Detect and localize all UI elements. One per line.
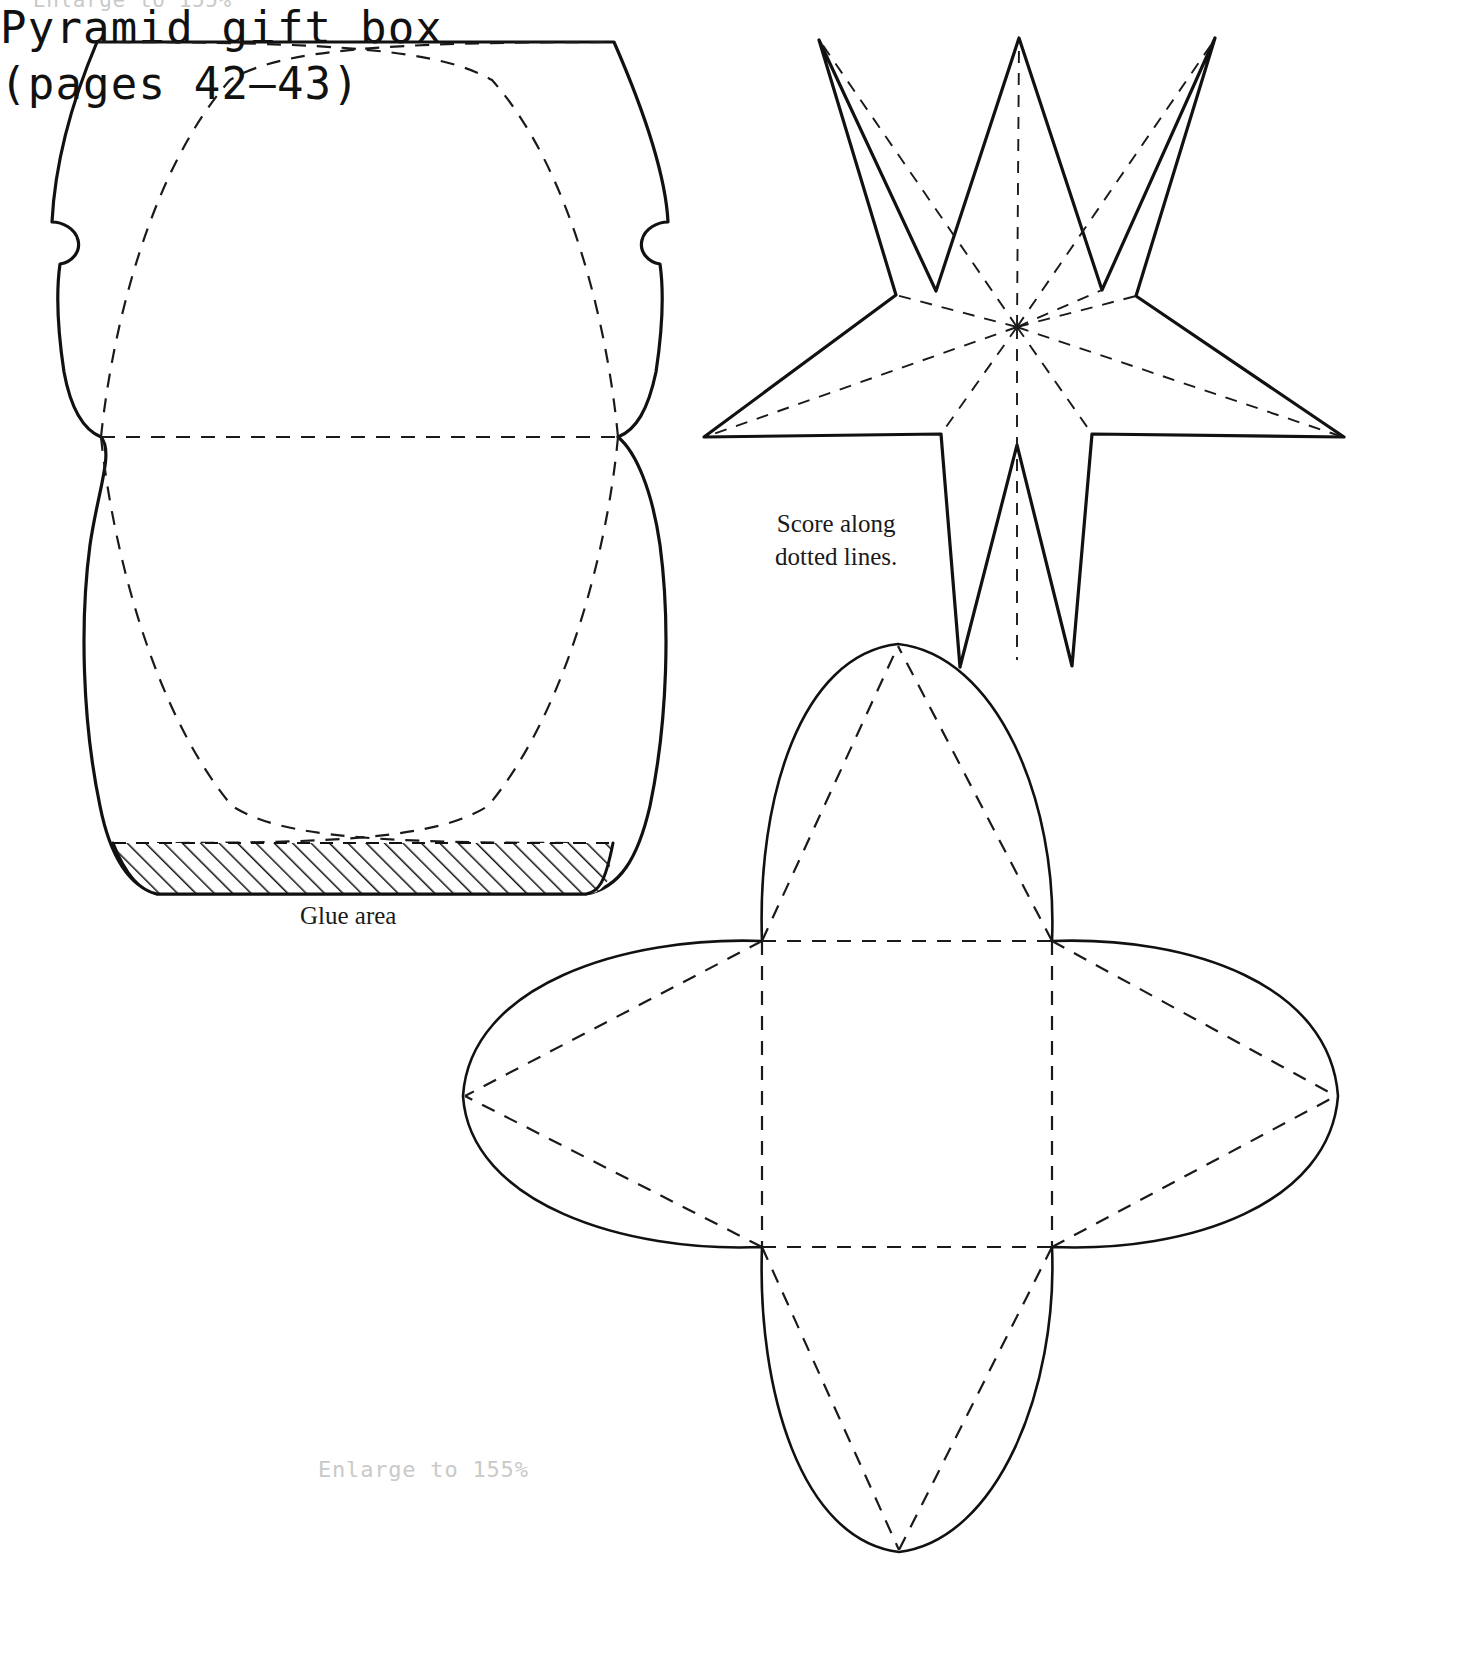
pyramid-score-top-petal-right: [898, 646, 1052, 941]
template-artwork: [0, 0, 1480, 1662]
glue-area-label: Glue area: [300, 899, 396, 932]
pillow-box-score-arc-bottom-left: [157, 437, 618, 843]
pyramid-score-left-petal-bottom: [465, 1096, 762, 1247]
score-instruction-label: Score along dotted lines.: [775, 507, 897, 573]
pillow-box-template: [52, 42, 668, 894]
star-score-to-tip-upper-left: [822, 44, 1017, 327]
enlarge-note-top: Enlarge to 155%: [33, 0, 232, 15]
template-page: Enlarge to 155% Score along dotted lines…: [0, 0, 1480, 1662]
star-score-to-tip-upper-right: [1017, 42, 1213, 327]
enlarge-note-bottom: Enlarge to 155%: [318, 1455, 529, 1484]
pillow-box-score-arc-bottom-right: [101, 437, 586, 843]
pillow-box-glue-hatch: [113, 843, 613, 894]
star-score-to-tip-lower-left: [708, 327, 1017, 436]
star-score-to-tip-top: [1017, 42, 1019, 327]
star-score-to-inner-left: [941, 327, 1017, 434]
pyramid-score-right-petal-bottom: [1052, 1096, 1336, 1247]
pyramid-score-left-petal-top: [465, 941, 762, 1096]
pyramid-score-bottom-petal-right: [899, 1247, 1052, 1550]
pyramid-score-bottom-petal-left: [762, 1247, 899, 1550]
pillow-box-score-arc-top-right: [101, 42, 614, 437]
pyramid-score-top-petal-left: [762, 646, 898, 941]
pillow-box-cut-outline: [52, 42, 668, 894]
star-score-to-inner-right: [1017, 327, 1092, 434]
pyramid-box-cut-outline: [463, 644, 1338, 1552]
pillow-box-score-arc-top-left: [97, 42, 618, 437]
star-score-to-tip-lower-right: [1017, 327, 1340, 436]
pyramid-box-template: [463, 644, 1338, 1552]
pyramid-score-right-petal-top: [1052, 941, 1336, 1096]
